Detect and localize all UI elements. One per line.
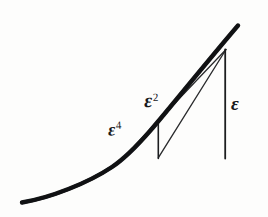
epsilon-fourth-exponent: 4	[116, 119, 122, 131]
epsilon-squared-base: ε	[144, 89, 153, 111]
epsilon-squared-exponent: 2	[153, 90, 159, 102]
epsilon-fourth-label: ε4	[108, 120, 123, 139]
thick-curve	[22, 26, 238, 203]
epsilon-squared-label: ε2	[144, 90, 159, 110]
epsilon-label: ε	[231, 94, 240, 113]
long-chord-line	[158, 50, 226, 158]
epsilon-base: ε	[231, 93, 239, 114]
figure-canvas: ε4 ε2 ε	[0, 0, 268, 217]
figure-drawing	[0, 0, 268, 217]
thick-curve-core	[22, 26, 238, 203]
